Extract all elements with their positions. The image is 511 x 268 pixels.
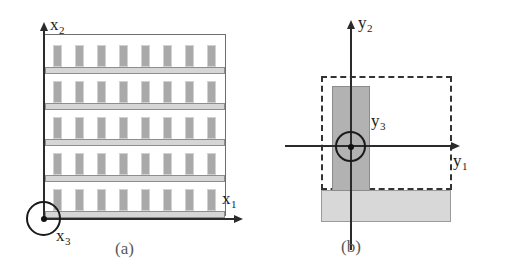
panel-a-stage: x2 x1 x3 (a) <box>0 0 256 268</box>
panel-a-periodic-medium: x2 x1 x3 (a) <box>0 0 256 268</box>
tooth <box>97 45 106 67</box>
tooth <box>185 81 194 103</box>
out-of-plane-axis-marker-y3 <box>335 131 366 162</box>
origin-dot <box>348 144 354 150</box>
axis-x1-line <box>43 218 235 220</box>
axis-x2-arrowhead <box>40 22 48 31</box>
row-base-strip <box>45 67 225 74</box>
tooth <box>141 81 150 103</box>
tooth <box>97 117 106 139</box>
row-base-strip <box>45 139 225 146</box>
tooth <box>119 153 128 175</box>
tooth <box>163 189 172 211</box>
tooth <box>185 117 194 139</box>
tooth <box>97 81 106 103</box>
axis-x1-label: x1 <box>222 190 237 207</box>
tooth <box>185 189 194 211</box>
panel-b-stage: y1 y2 y3 (b) <box>255 0 511 268</box>
row-base-strip <box>45 103 225 110</box>
axis-y2-label: y2 <box>358 14 373 31</box>
panel-a-caption: (a) <box>115 240 134 257</box>
tooth <box>75 117 84 139</box>
tooth <box>119 45 128 67</box>
tooth <box>141 117 150 139</box>
panel-b-unit-cell: y1 y2 y3 (b) <box>255 0 511 268</box>
tooth <box>207 81 216 103</box>
tooth <box>75 189 84 211</box>
axis-y1-arrowhead <box>451 142 460 150</box>
tooth <box>75 45 84 67</box>
tooth <box>141 153 150 175</box>
tooth <box>163 45 172 67</box>
tooth <box>53 45 62 67</box>
axis-x2-label: x2 <box>50 16 65 33</box>
tooth <box>207 45 216 67</box>
tooth <box>97 189 106 211</box>
tooth <box>163 81 172 103</box>
axis-x3-label: x3 <box>56 227 71 244</box>
axis-x1-arrowhead <box>234 215 243 223</box>
tooth-row <box>45 80 225 110</box>
row-base-strip <box>45 211 225 218</box>
axis-y1-label: y1 <box>453 152 468 169</box>
tooth <box>163 153 172 175</box>
axis-x2-line <box>43 30 45 220</box>
tooth <box>185 153 194 175</box>
tooth-row <box>45 152 225 182</box>
tooth <box>207 117 216 139</box>
panel-b-caption: (b) <box>341 238 361 255</box>
figure-root: x2 x1 x3 (a) <box>0 0 511 268</box>
tooth <box>163 117 172 139</box>
tooth <box>141 189 150 211</box>
tooth <box>53 117 62 139</box>
tooth <box>185 45 194 67</box>
origin-dot <box>41 216 47 222</box>
axis-y2-arrowhead <box>347 20 355 29</box>
tooth <box>97 153 106 175</box>
tooth-row <box>45 188 225 218</box>
tooth <box>75 153 84 175</box>
tooth <box>53 81 62 103</box>
tee-base-bar <box>321 190 451 222</box>
tooth-row <box>45 116 225 146</box>
tooth <box>207 189 216 211</box>
tooth-row <box>45 44 225 74</box>
tooth <box>75 81 84 103</box>
axis-y3-label: y3 <box>371 112 386 129</box>
tooth <box>141 45 150 67</box>
tooth <box>207 153 216 175</box>
tooth <box>119 189 128 211</box>
axis-y1-line <box>285 145 452 147</box>
tooth <box>53 153 62 175</box>
tooth <box>119 117 128 139</box>
tooth <box>119 81 128 103</box>
row-base-strip <box>45 175 225 182</box>
